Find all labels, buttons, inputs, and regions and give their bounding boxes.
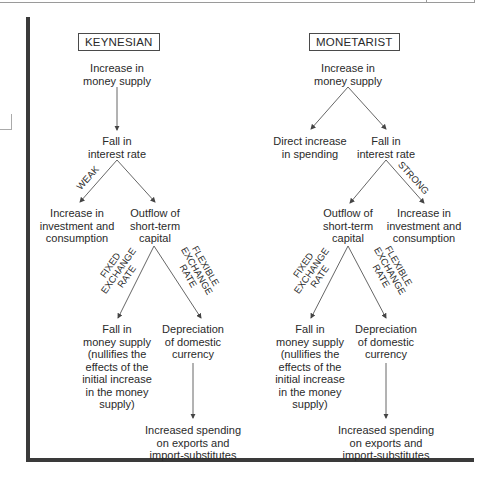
node-line: Fall in: [82, 323, 152, 336]
node-line: interest rate: [88, 148, 146, 161]
flow-arrows: [0, 0, 489, 497]
node-line: of domestic: [162, 336, 224, 349]
keynesian-title: KEYNESIAN: [78, 33, 160, 51]
node-line: consumption: [40, 232, 115, 245]
node-line: currency: [162, 348, 224, 361]
m-outflow-capital: Outflow of short-term capital: [323, 207, 373, 245]
node-line: effects of the: [82, 361, 152, 374]
node-line: Increase in: [387, 207, 462, 220]
node-line: initial increase: [275, 373, 345, 386]
node-line: Increase in: [314, 62, 382, 75]
node-line: on exports and: [145, 437, 241, 450]
m-increase-money-supply: Increase in money supply: [314, 62, 382, 87]
k-outflow-capital: Outflow of short-term capital: [130, 207, 180, 245]
node-line: import-substitutes: [145, 449, 241, 462]
node-line: supply): [275, 398, 345, 411]
m-increase-investment: Increase in investment and consumption: [387, 207, 462, 245]
k-increase-money-supply: Increase in money supply: [83, 62, 151, 87]
m-increased-spending: Increased spending on exports and import…: [338, 424, 434, 462]
k-fall-interest-rate: Fall in interest rate: [88, 135, 146, 160]
node-line: consumption: [387, 232, 462, 245]
node-line: capital: [323, 232, 373, 245]
node-line: in spending: [273, 148, 346, 161]
node-line: import-substitutes: [338, 449, 434, 462]
node-line: on exports and: [338, 437, 434, 450]
k-increased-spending: Increased spending on exports and import…: [145, 424, 241, 462]
node-line: money supply: [82, 336, 152, 349]
node-line: investment and: [40, 220, 115, 233]
node-line: effects of the: [275, 361, 345, 374]
node-line: short-term: [130, 220, 180, 233]
node-line: Increased spending: [338, 424, 434, 437]
m-fall-interest-rate: Fall in interest rate: [357, 135, 415, 160]
node-line: money supply: [83, 75, 151, 88]
m-fall-money-supply: Fall in money supply (nullifies the effe…: [275, 323, 345, 411]
node-line: of domestic: [355, 336, 417, 349]
k-fall-money-supply: Fall in money supply (nullifies the effe…: [82, 323, 152, 411]
node-line: capital: [130, 232, 180, 245]
node-line: money supply: [275, 336, 345, 349]
node-line: Fall in: [275, 323, 345, 336]
node-line: short-term: [323, 220, 373, 233]
node-line: Depreciation: [355, 323, 417, 336]
node-line: Fall in: [88, 135, 146, 148]
node-line: interest rate: [357, 148, 415, 161]
node-line: Outflow of: [130, 207, 180, 220]
node-line: initial increase: [82, 373, 152, 386]
node-line: in the money: [275, 386, 345, 399]
node-line: investment and: [387, 220, 462, 233]
node-line: Increase in: [83, 62, 151, 75]
node-line: currency: [355, 348, 417, 361]
node-line: Depreciation: [162, 323, 224, 336]
m-depreciation: Depreciation of domestic currency: [355, 323, 417, 361]
node-line: supply): [82, 398, 152, 411]
k-depreciation: Depreciation of domestic currency: [162, 323, 224, 361]
k-increase-investment: Increase in investment and consumption: [40, 207, 115, 245]
node-line: in the money: [82, 386, 152, 399]
node-line: Direct increase: [273, 135, 346, 148]
node-line: Increased spending: [145, 424, 241, 437]
node-line: Increase in: [40, 207, 115, 220]
node-line: (nullifies the: [82, 348, 152, 361]
node-line: Outflow of: [323, 207, 373, 220]
m-direct-increase-spending: Direct increase in spending: [273, 135, 346, 160]
node-line: (nullifies the: [275, 348, 345, 361]
node-line: money supply: [314, 75, 382, 88]
node-line: Fall in: [357, 135, 415, 148]
monetarist-title: MONETARIST: [309, 33, 400, 51]
